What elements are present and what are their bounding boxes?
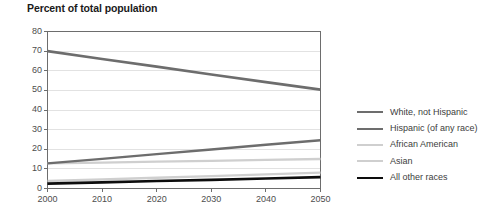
legend-swatch-icon	[357, 128, 383, 130]
x-tick-label: 2010	[80, 194, 124, 203]
legend-label: All other races	[390, 173, 448, 182]
legend-item[interactable]: Hispanic (of any race)	[357, 120, 489, 136]
chart-legend: White, not HispanicHispanic (of any race…	[357, 104, 489, 186]
plot-area: 01020304050607080 2000201020202030204020…	[0, 0, 345, 202]
legend-item[interactable]: Asian	[357, 153, 489, 169]
legend-label: Asian	[390, 157, 413, 166]
x-tick-label: 2050	[299, 194, 343, 203]
x-tick-label: 2020	[135, 194, 179, 203]
plot-svg	[0, 0, 345, 202]
x-tick-label: 2000	[26, 194, 70, 203]
y-tick-label: 80	[12, 26, 42, 36]
y-tick-label: 60	[12, 65, 42, 75]
y-tick-label: 40	[12, 104, 42, 114]
legend-item[interactable]: African American	[357, 137, 489, 153]
y-tick-label: 0	[12, 183, 42, 193]
y-tick-label: 50	[12, 84, 42, 94]
legend-item[interactable]: All other races	[357, 170, 489, 186]
legend-label: White, not Hispanic	[390, 108, 468, 117]
legend-label: African American	[390, 140, 458, 149]
y-tick-label: 30	[12, 124, 42, 134]
legend-swatch-icon	[357, 177, 383, 179]
legend-swatch-icon	[357, 111, 383, 113]
x-tick-label: 2040	[244, 194, 288, 203]
y-tick-label: 20	[12, 143, 42, 153]
legend-label: Hispanic (of any race)	[390, 124, 478, 133]
y-tick-label: 10	[12, 163, 42, 173]
legend-swatch-icon	[357, 144, 383, 146]
y-tick-label: 70	[12, 45, 42, 55]
legend-item[interactable]: White, not Hispanic	[357, 104, 489, 120]
x-tick-label: 2030	[189, 194, 233, 203]
legend-swatch-icon	[357, 160, 383, 162]
chart-figure: Percent of total population 010203040506…	[0, 0, 489, 202]
